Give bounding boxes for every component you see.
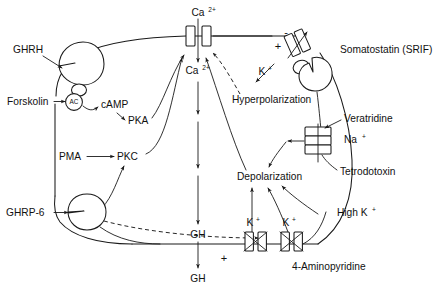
gh-plus-sign: + [221, 252, 227, 264]
pma-label: PMA [59, 151, 81, 162]
pkc-group: PKC [117, 151, 138, 162]
pkc-label: PKC [117, 151, 138, 162]
potassium-channel-right [280, 232, 303, 251]
pkc-to-calcium-arrow [146, 58, 182, 154]
potassium-right-label: K + [283, 216, 296, 229]
sodium-channel [305, 124, 331, 162]
camp-group: cAMP [83, 99, 128, 110]
forskolin-label: Forskolin [7, 96, 48, 107]
tetrodotoxin-label: Tetrodotoxin [340, 166, 396, 177]
svg-text:Na: Na [344, 134, 357, 145]
ghrp6-to-pkc-arrow [102, 166, 124, 208]
gh-inside-label: GH [190, 229, 205, 240]
high-potassium-group: High K + [337, 206, 376, 219]
signaling-diagram-figure: AC GHRH Forskolin cAMP PKA PMA PKC GHRP-… [0, 0, 442, 289]
depolarization-label: Depolarization [237, 171, 302, 182]
potassium-channel-left [244, 232, 267, 251]
pka-label: PKA [128, 115, 149, 126]
membrane-plus-sign: + [275, 40, 281, 52]
camp-label: cAMP [101, 99, 128, 110]
potassium-left-label: K + [247, 216, 260, 229]
sodium-superscript: + [362, 133, 366, 140]
ghrh-label: GHRH [13, 44, 43, 55]
veratridine-label: Veratridine [344, 113, 393, 124]
ghrp6-to-membrane-curve [100, 227, 160, 244]
tetrodotoxin-group: Tetrodotoxin [322, 155, 396, 177]
forskolin-group: Forskolin [7, 96, 65, 107]
aminopyridine-label: 4-Aminopyridine [292, 261, 366, 272]
ghrp6-group: GHRP-6 [6, 207, 68, 218]
svg-text:Ca: Ca [191, 7, 204, 18]
somatostatin-receptor [291, 57, 332, 91]
ghrh-group: GHRH [13, 44, 62, 68]
high-potassium-to-depolarization-arrow [282, 186, 318, 214]
calcium-out-label: Ca 2+ [191, 6, 215, 19]
potassium-left-superscript: + [256, 216, 260, 223]
ghrp6-dashed-pathway [104, 221, 258, 238]
somatostatin-label: Somatostatin (SRIF) [340, 44, 432, 55]
ghrp6-receptor [68, 194, 106, 230]
svg-text:High K: High K [337, 207, 368, 218]
svg-text:K: K [283, 217, 290, 228]
potassium-right-superscript: + [292, 216, 296, 223]
hyperpolarization-label: Hyperpolarization [232, 94, 311, 105]
ghrp6-label: GHRP-6 [6, 207, 45, 218]
potassium-srif-label: K + [259, 65, 272, 78]
sodium-label-group: Na + [344, 133, 366, 146]
svg-text:K: K [247, 217, 254, 228]
pka-group: PKA [117, 113, 149, 126]
diagram-canvas: AC GHRH Forskolin cAMP PKA PMA PKC GHRP-… [0, 0, 442, 289]
calcium-in-label: Ca 2+ [185, 64, 209, 77]
veratridine-group: Veratridine [325, 113, 393, 128]
svg-text:Ca: Ca [185, 65, 198, 76]
ghrh-receptor: AC [59, 42, 104, 110]
aminopyridine-to-channel-curve [303, 212, 326, 244]
calcium-superscript: 2+ [208, 6, 216, 13]
sodium-to-depolarization-arrow [269, 142, 286, 167]
pka-to-calcium-arrow [152, 55, 184, 118]
gh-outside-label: GH [190, 273, 205, 284]
pma-group: PMA [59, 151, 114, 162]
ac-label: AC [70, 98, 79, 105]
depolarization-to-calcium-arrow [206, 58, 246, 170]
membrane-minus-sign: - [284, 26, 288, 38]
hyperpolarization-to-calcium-arrow [213, 53, 240, 94]
high-potassium-superscript: + [372, 206, 376, 213]
